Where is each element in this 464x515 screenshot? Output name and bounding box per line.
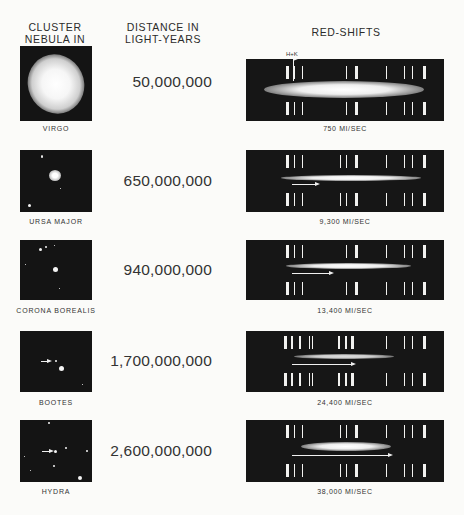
header-line: LIGHT-YEARS	[118, 33, 208, 45]
header-cluster-nebula: CLUSTER NEBULA IN	[12, 21, 98, 45]
spectrum-ursa-major	[246, 150, 444, 212]
velocity-label: 750 MI/SEC	[246, 125, 444, 132]
distance-value: 940,000,000	[108, 261, 212, 279]
header-redshifts: RED-SHIFTS	[300, 26, 392, 38]
galaxy-blob	[20, 46, 92, 121]
galaxy-pointer-arrow	[41, 361, 48, 362]
redshift-arrow	[292, 273, 330, 274]
redshift-arrow	[292, 455, 389, 456]
header-distance: DISTANCE IN LIGHT-YEARS	[118, 21, 208, 45]
velocity-label: 13,400 MI/SEC	[246, 307, 444, 314]
spectrum-band	[264, 81, 424, 98]
distance-value: 50,000,000	[108, 73, 212, 91]
header-line: DISTANCE IN	[118, 21, 208, 33]
redshift-arrow	[292, 184, 316, 185]
velocity-label: 38,000 MI/SEC	[246, 488, 444, 495]
cluster-label: HYDRA	[0, 488, 112, 495]
distance-value: 650,000,000	[108, 172, 212, 190]
galaxy-pointer-arrow	[42, 451, 50, 452]
spectrum-bootes	[246, 331, 444, 392]
spectrum-hydra	[246, 420, 444, 482]
cluster-label: BOOTES	[0, 399, 112, 406]
cluster-label: URSA MAJOR	[0, 218, 112, 225]
galaxy-image-bootes	[20, 331, 92, 392]
cluster-label: VIRGO	[0, 125, 112, 132]
spectrum-virgo	[246, 59, 444, 121]
galaxy-image-hydra	[20, 420, 92, 482]
galaxy-image-virgo	[20, 46, 92, 121]
spectrum-corona-borealis	[246, 240, 444, 300]
velocity-label: 24,400 MI/SEC	[246, 399, 444, 406]
hk-label: H+K	[286, 51, 298, 57]
distance-value: 1,700,000,000	[108, 352, 212, 370]
galaxy-image-corona-borealis	[20, 240, 92, 300]
distance-value: 2,600,000,000	[108, 442, 212, 460]
cluster-label: CORONA BOREALIS	[0, 307, 112, 314]
galaxy-image-ursa-major	[20, 150, 92, 212]
header-line: CLUSTER	[12, 21, 98, 33]
redshift-arrow	[292, 364, 352, 365]
header-line: NEBULA IN	[12, 33, 98, 45]
velocity-label: 9,300 MI/SEC	[246, 218, 444, 225]
